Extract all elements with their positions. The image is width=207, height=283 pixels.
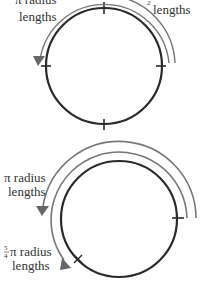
top-left-label-line2: lengths xyxy=(19,9,57,24)
x-mark-icon xyxy=(74,255,82,263)
top-right-label-line2: lengths xyxy=(153,2,191,17)
radians-diagram: π radius lengths 2 lengths π radius leng… xyxy=(0,0,207,283)
five-quarter-label-line2: lengths xyxy=(12,258,50,273)
fraction-denominator: 4 xyxy=(4,252,8,260)
arrowhead-icon xyxy=(36,206,49,216)
arrowhead-icon xyxy=(60,258,71,270)
top-left-label-line1: π radius xyxy=(15,0,57,7)
top-right-fraction: 2 xyxy=(147,0,151,7)
top-circle xyxy=(46,8,162,124)
fraction-numerator: 5 xyxy=(4,244,8,252)
pi-label-line1: π radius xyxy=(4,170,46,185)
bottom-diagram: π radius lengths 5 4 π radius lengths xyxy=(4,141,196,277)
arrowhead-icon xyxy=(33,56,45,66)
five-quarter-label-line1: π radius xyxy=(10,244,52,259)
pi-label-line2: lengths xyxy=(8,184,46,199)
five-quarter-pi-arc xyxy=(51,152,187,260)
top-diagram: π radius lengths 2 lengths xyxy=(15,0,191,130)
